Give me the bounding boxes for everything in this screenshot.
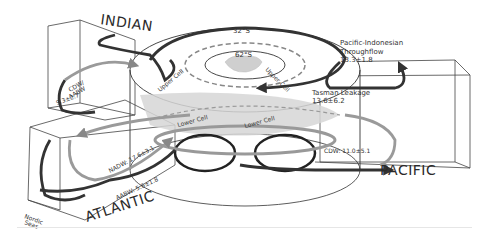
label-indian: INDIAN (100, 11, 154, 34)
label-62s: 62°S (235, 51, 252, 59)
label-throughflow-2: Throughflow (339, 48, 384, 56)
indian-return-flow (65, 62, 135, 80)
label-tasman: Tasman Leakage (311, 89, 370, 97)
bottom-divider (17, 227, 472, 228)
label-32s: 32°S (233, 27, 250, 35)
value-throughflow: 13.3±1.8 (340, 56, 373, 64)
overturning-diagram: INDIAN ATLANTIC PACIFIC 32°S 62°S Upper … (0, 0, 492, 243)
label-pacific: PACIFIC (380, 162, 436, 178)
value-tasman: 13.6±6.2 (312, 97, 345, 105)
label-cdw-pacific: CDW: 11.0±5.1 (324, 147, 370, 154)
label-throughflow: Pacific-Indonesian (340, 39, 403, 47)
